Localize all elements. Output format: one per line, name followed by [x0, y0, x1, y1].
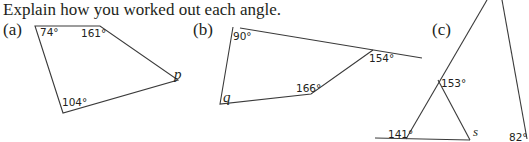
part-label-b: (b) — [193, 20, 213, 40]
part-label-a: (a) — [3, 20, 22, 40]
angle-c-82: 82° — [509, 131, 528, 142]
angle-a-104: 104° — [62, 96, 87, 108]
angle-b-166: 166° — [296, 82, 321, 94]
unknown-b-q: q — [223, 89, 231, 106]
angle-b-90: 90° — [233, 30, 252, 42]
shape-c-right-line — [502, 0, 527, 139]
angle-a-74: 74° — [40, 26, 59, 38]
unknown-a-p: p — [174, 66, 182, 83]
shape-b-outline — [240, 28, 422, 58]
angle-c-153: 153° — [441, 77, 466, 89]
angle-b-154: 154° — [369, 52, 394, 64]
angle-a-161: 161° — [81, 27, 106, 39]
shape-a-quadrilateral — [35, 26, 178, 113]
unknown-c-s: s — [473, 124, 478, 140]
angle-c-141: 141° — [388, 128, 413, 140]
shape-c-inner-line — [438, 80, 470, 140]
part-label-c: (c) — [432, 20, 451, 40]
